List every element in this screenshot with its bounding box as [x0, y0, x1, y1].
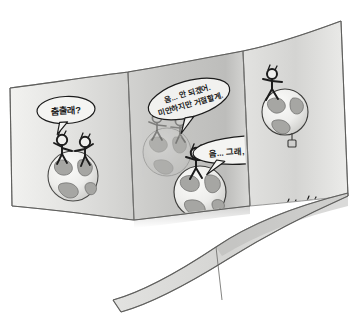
comic-artboard: 춤출래?: [0, 0, 351, 329]
globe-ghost-panel-2: [143, 128, 191, 176]
figure-crowd-e-panel-3: [294, 220, 311, 246]
globe-panel-1: [48, 151, 98, 201]
bubble-invite-line-1: 춤출래?: [51, 104, 82, 117]
illustration-stage: 춤출래?: [0, 0, 351, 329]
globe-landmass: [277, 231, 321, 272]
figure-crowd-d-panel-3: [317, 221, 333, 247]
